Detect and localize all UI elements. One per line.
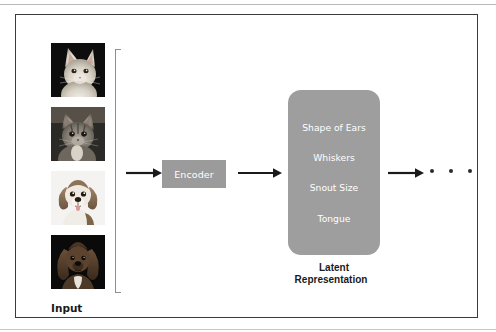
bracket-tick-top bbox=[115, 49, 121, 50]
input-caption: Input bbox=[51, 302, 82, 314]
latent-caption: Latent Representation bbox=[288, 262, 380, 286]
input-image-dark-setter-dog bbox=[51, 235, 105, 289]
encoder-label: Encoder bbox=[174, 169, 214, 180]
latent-feature-snout-size: Snout Size bbox=[310, 183, 358, 192]
ellipsis-dot bbox=[468, 169, 472, 173]
arrow-input-to-encoder-icon bbox=[126, 167, 162, 179]
continuation-ellipsis-icon bbox=[430, 169, 484, 177]
input-image-white-cat bbox=[51, 43, 105, 97]
latent-feature-whiskers: Whiskers bbox=[313, 153, 354, 162]
latent-caption-line2: Representation bbox=[282, 274, 380, 286]
input-image-beagle-puppy bbox=[51, 171, 105, 225]
page-bottom-rule bbox=[0, 329, 496, 330]
bracket-spine bbox=[115, 49, 116, 293]
arrow-latent-to-next-icon bbox=[388, 167, 424, 179]
ellipsis-dot bbox=[430, 169, 434, 173]
figure-canvas: Encoder Shape of Ears Whiskers Snout Siz… bbox=[0, 0, 496, 332]
latent-feature-tongue: Tongue bbox=[318, 214, 351, 223]
arrow-encoder-to-latent-icon bbox=[238, 167, 282, 179]
latent-feature-shape-of-ears: Shape of Ears bbox=[302, 123, 365, 132]
encoder-block[interactable]: Encoder bbox=[162, 160, 226, 188]
input-group-bracket bbox=[115, 49, 123, 293]
ellipsis-dot bbox=[449, 169, 453, 173]
bracket-tick-bottom bbox=[115, 292, 121, 293]
input-image-tabby-cat bbox=[51, 107, 105, 161]
figure-frame: Encoder Shape of Ears Whiskers Snout Siz… bbox=[15, 14, 478, 318]
input-image-stack bbox=[51, 43, 105, 293]
page-top-rule bbox=[0, 4, 496, 5]
latent-representation-block[interactable]: Shape of Ears Whiskers Snout Size Tongue bbox=[288, 90, 380, 255]
latent-caption-line1: Latent bbox=[319, 262, 349, 273]
